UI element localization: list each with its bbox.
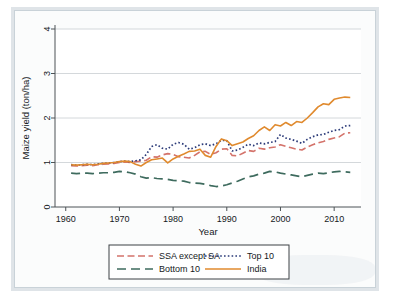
y-tick-label: 1 bbox=[42, 160, 52, 165]
y-tick-label: 2 bbox=[42, 115, 52, 120]
screenshot-page: 01234196019701980199020002010YearMaize y… bbox=[0, 0, 396, 303]
y-tick-label: 4 bbox=[42, 26, 52, 31]
legend-label-top-10: Top 10 bbox=[247, 251, 274, 261]
legend-label-ssa-except-sa: SSA except SA bbox=[159, 251, 220, 261]
x-tick-label: 1980 bbox=[163, 214, 183, 224]
legend-label-bottom-10: Bottom 10 bbox=[159, 264, 200, 274]
legend-label-india: India bbox=[247, 264, 267, 274]
maize-yield-chart: 01234196019701980199020002010YearMaize y… bbox=[15, 11, 375, 287]
x-tick-label: 2010 bbox=[324, 214, 344, 224]
x-tick-label: 2000 bbox=[270, 214, 290, 224]
x-tick-label: 1970 bbox=[109, 214, 129, 224]
x-axis-title: Year bbox=[198, 226, 217, 237]
x-tick-label: 1990 bbox=[217, 214, 237, 224]
y-tick-label: 0 bbox=[42, 204, 52, 209]
y-axis-title: Maize yield (ton/ha) bbox=[20, 77, 31, 160]
x-tick-label: 1960 bbox=[56, 214, 76, 224]
y-tick-label: 3 bbox=[42, 71, 52, 76]
chart-canvas: 01234196019701980199020002010YearMaize y… bbox=[15, 11, 375, 287]
